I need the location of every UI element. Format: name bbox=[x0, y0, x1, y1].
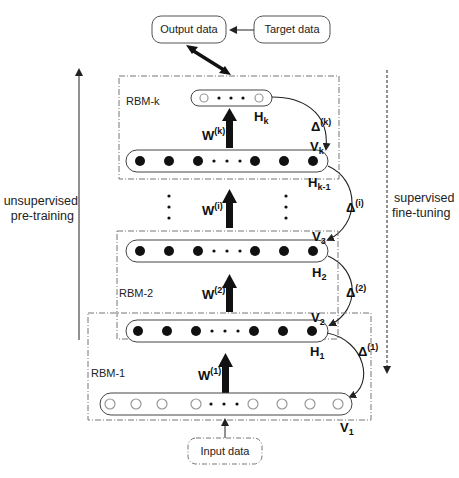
layer-h1 bbox=[126, 320, 328, 342]
output-data-label: Output data bbox=[160, 23, 218, 35]
hk-label: Hk bbox=[254, 109, 269, 126]
weight-i-label: W(i) bbox=[202, 201, 223, 218]
delta-1-label: Δ(1) bbox=[358, 342, 378, 359]
target-data-label: Target data bbox=[264, 23, 320, 35]
vk-label: Vk bbox=[310, 139, 325, 156]
ellipsis-right bbox=[284, 194, 287, 219]
weight-i-arrow bbox=[222, 189, 237, 228]
v3-label: V3 bbox=[312, 229, 326, 246]
weight-2-label: W(2) bbox=[202, 285, 225, 302]
layer-h2 bbox=[126, 240, 328, 262]
layer-hk-1 bbox=[126, 150, 328, 172]
output-bidirectional-arrow bbox=[186, 45, 231, 75]
delta-1-curve bbox=[327, 333, 364, 397]
left-label-line1: unsupervised bbox=[4, 194, 78, 208]
output-data-box: Output data bbox=[152, 16, 226, 43]
rbm-1-label: RBM-1 bbox=[91, 367, 125, 379]
v1-label: V1 bbox=[340, 420, 354, 437]
ellipsis-left bbox=[167, 194, 170, 219]
layer-v1 bbox=[100, 393, 352, 415]
delta-k-label: Δ(k) bbox=[311, 117, 331, 134]
input-data-label: Input data bbox=[201, 445, 251, 457]
left-label-line2: pre-training bbox=[11, 209, 74, 223]
delta-i-label: Δ(i) bbox=[346, 198, 364, 215]
target-data-box: Target data bbox=[254, 16, 330, 43]
weight-k-label: W(k) bbox=[202, 126, 225, 143]
input-data-box: Input data bbox=[188, 438, 262, 464]
right-label-line1: supervised bbox=[394, 191, 454, 205]
rbm-k-label: RBM-k bbox=[126, 95, 160, 107]
hk-1-label: Hk-1 bbox=[308, 175, 330, 192]
dbn-diagram: Output data Target data unsupervised pre… bbox=[0, 0, 459, 478]
right-label-line2: fine-tuning bbox=[392, 206, 450, 220]
h2-label: H2 bbox=[312, 265, 326, 282]
delta-2-label: Δ(2) bbox=[346, 283, 366, 300]
h1-label: H1 bbox=[310, 344, 324, 361]
weight-1-label: W(1) bbox=[198, 366, 221, 383]
rbm-2-label: RBM-2 bbox=[119, 287, 153, 299]
layer-hk bbox=[191, 90, 272, 106]
